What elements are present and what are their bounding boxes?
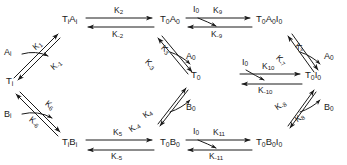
species-Ai-left: Ai bbox=[4, 48, 11, 58]
species-B0-mid: B0 bbox=[186, 103, 196, 113]
species-B0-right: B0 bbox=[324, 103, 334, 113]
arrow-T0B0-to-T0B0I0 bbox=[186, 140, 252, 150]
species-I0-top: I0 bbox=[193, 5, 199, 15]
node-T0I0: T0I0 bbox=[305, 70, 321, 81]
rate-K9: K9 bbox=[213, 6, 222, 15]
rate-Km10: K-10 bbox=[258, 86, 273, 95]
arrow-TiAi-to-T0A0 bbox=[86, 18, 154, 27]
arrow-A0-out-right bbox=[300, 52, 320, 64]
node-TiAi: TiAi bbox=[62, 14, 77, 25]
species-A0-mid: A0 bbox=[186, 52, 196, 62]
node-T0B0I0: T0B0I0 bbox=[256, 137, 282, 148]
arrow-T0A0-to-T0A0I0 bbox=[186, 18, 252, 27]
species-A0-right: A0 bbox=[324, 52, 334, 62]
arrow-T0-to-T0I0 bbox=[240, 74, 302, 84]
species-Bi-left: Bi bbox=[4, 110, 11, 120]
node-T0A0I0: T0A0I0 bbox=[256, 14, 282, 25]
node-T0A0: T0A0 bbox=[160, 14, 180, 25]
arrow-Ai-in bbox=[22, 52, 48, 56]
rate-Km9: K-9 bbox=[211, 30, 222, 39]
rate-Km2: K-2 bbox=[112, 30, 123, 39]
species-I0-mid: I0 bbox=[242, 58, 248, 68]
rate-K11: K11 bbox=[213, 128, 225, 137]
rate-K10: K10 bbox=[262, 62, 274, 71]
rate-Km11: K-11 bbox=[209, 152, 223, 161]
arrow-I0-in-bot bbox=[198, 140, 216, 148]
species-I0-bot: I0 bbox=[193, 127, 199, 137]
node-T0: T0 bbox=[191, 70, 201, 81]
kinetic-scheme-diagram: TiAi T0A0 T0A0I0 Ti T0 T0I0 TiBi T0B0 T0… bbox=[0, 0, 347, 165]
arrow-TiBi-to-T0B0 bbox=[86, 140, 154, 150]
rate-Km5: K-5 bbox=[111, 152, 122, 161]
node-Ti: Ti bbox=[6, 76, 13, 87]
rate-K2: K2 bbox=[114, 6, 123, 15]
rate-K5: K5 bbox=[113, 128, 122, 137]
arrow-I0-in-top bbox=[198, 18, 216, 26]
node-T0B0: T0B0 bbox=[160, 137, 180, 148]
node-TiBi: TiBi bbox=[62, 137, 77, 148]
arrow-I0-in-mid bbox=[246, 70, 264, 80]
arrow-T0-to-T0B0 bbox=[158, 88, 188, 126]
